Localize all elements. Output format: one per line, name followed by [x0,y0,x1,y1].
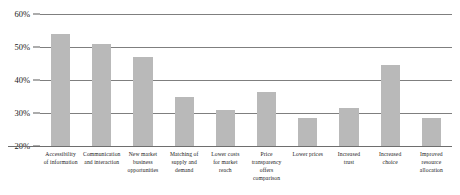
y-axis-tick-label: 60% [0,10,30,19]
y-axis-tick-mark [33,113,40,114]
x-axis-category-label: Lower costsfor marketreach [205,150,246,174]
y-axis-tick-label: 40% [0,76,30,85]
x-axis-category-label: Pricetransparencyofferscomparison [246,150,287,182]
x-axis-category-label: Accessibilityof information [40,150,81,166]
bar-chart: 60%50%40%30%20% Accessibilityof informat… [0,0,460,195]
bar [133,57,152,146]
bar [339,108,358,146]
y-axis-tick-mark [33,80,40,81]
bar [257,92,276,146]
y-axis-tick-mark [33,14,40,15]
bars-group [40,14,452,146]
x-axis-category-label: Lower prices [287,150,328,158]
x-axis-category-label: New marketbusinessopportunities [122,150,163,174]
bar [175,97,194,147]
x-axis-labels-group: Accessibilityof informationCommunication… [40,150,452,195]
x-axis-category-label: Increasedtrust [328,150,369,166]
x-axis-category-label: Improvedresourceallocation [411,150,452,174]
x-axis-category-label: Communicationand interaction [81,150,122,166]
bar [381,65,400,146]
bar [51,34,70,146]
x-axis-category-label: Matching ofsupply anddemand [164,150,205,174]
y-axis-tick-label: 30% [0,109,30,118]
x-axis-category-label: Increasedchoice [370,150,411,166]
bar [92,44,111,146]
y-axis-tick-mark [33,47,40,48]
y-axis-tick-label: 50% [0,43,30,52]
bar [216,110,235,146]
x-axis-baseline [8,146,452,147]
bar [422,118,441,146]
bar [298,118,317,146]
